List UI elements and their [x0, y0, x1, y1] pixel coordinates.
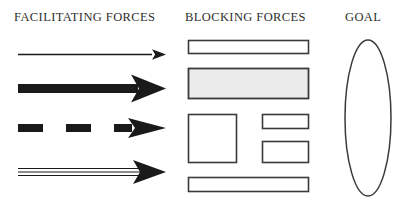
goal-ellipse: [345, 40, 391, 196]
goal-group: [0, 0, 407, 208]
force-field-diagram: FACILITATING FORCES BLOCKING FORCES GOAL: [0, 0, 407, 208]
